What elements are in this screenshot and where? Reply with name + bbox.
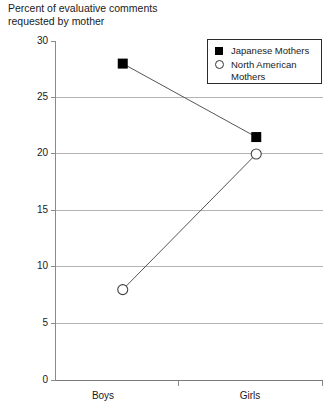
- legend-label-japanese: Japanese Mothers: [231, 45, 309, 57]
- gridline-5: [56, 323, 323, 324]
- gridline-25: [56, 97, 323, 98]
- gridline-10: [56, 266, 323, 267]
- y-tick-label-30: 30: [4, 36, 48, 46]
- legend-item-north-american-mothers: North American Mothers: [215, 59, 296, 82]
- y-tick-label-25: 25: [4, 92, 48, 102]
- plot-area: [56, 41, 323, 380]
- x-tick-label-boys: Boys: [73, 390, 133, 401]
- filled-square-icon: [215, 45, 231, 56]
- open-circle-icon: [215, 59, 231, 70]
- x-axis-baseline: [56, 380, 323, 381]
- chart-figure: Percent of evaluative comments requested…: [0, 0, 335, 414]
- legend-label-north-american: North American Mothers: [231, 59, 296, 82]
- x-tick-label-girls: Girls: [220, 390, 280, 401]
- gridline-15: [56, 210, 323, 211]
- x-tick-mark-right: [322, 381, 323, 386]
- y-tick-label-5: 5: [4, 318, 48, 328]
- y-tick-label-10: 10: [4, 261, 48, 271]
- y-tick-label-15: 15: [4, 205, 48, 215]
- y-tick-label-0: 0: [4, 375, 48, 385]
- y-axis-tick-labels: 30 25 20 15 10 5 0: [0, 0, 48, 414]
- legend-box: Japanese Mothers North American Mothers: [207, 39, 322, 84]
- gridline-20: [56, 153, 323, 154]
- legend-item-japanese-mothers: Japanese Mothers: [215, 45, 309, 57]
- y-tick-label-20: 20: [4, 148, 48, 158]
- x-tick-mark-middle: [178, 381, 179, 386]
